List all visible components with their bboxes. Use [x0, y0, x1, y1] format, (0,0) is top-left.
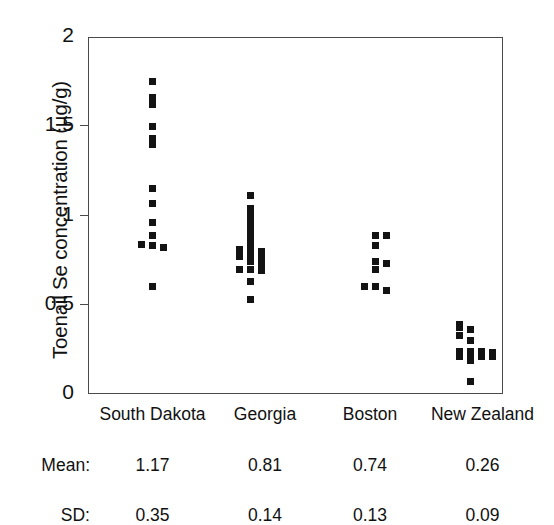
data-point — [247, 192, 254, 199]
data-point — [149, 283, 156, 290]
data-point — [149, 94, 156, 101]
data-point — [149, 101, 156, 108]
data-point — [247, 212, 254, 219]
group-label-boston: Boston — [320, 404, 420, 425]
data-point — [489, 349, 496, 356]
group-label-georgia: Georgia — [215, 404, 315, 425]
mean-boston: 0.74 — [320, 455, 420, 476]
data-point — [456, 332, 463, 339]
sd-row-label: SD: — [10, 505, 90, 525]
data-point — [372, 266, 379, 273]
data-point — [149, 123, 156, 130]
data-point — [247, 278, 254, 285]
mean-row: Mean: 1.17 0.81 0.74 0.26 — [0, 455, 554, 480]
data-point — [236, 266, 243, 273]
data-point — [478, 353, 485, 360]
group-label-row: South Dakota Georgia Boston New Zealand — [0, 404, 554, 429]
data-point — [149, 185, 156, 192]
y-tick-label-0.5: 0.5 — [8, 291, 74, 315]
y-tick-label-2: 2 — [8, 23, 74, 47]
data-point — [138, 241, 145, 248]
data-point — [247, 296, 254, 303]
data-point — [467, 337, 474, 344]
data-point — [372, 283, 379, 290]
data-point — [247, 266, 254, 273]
data-point — [247, 205, 254, 212]
group-label-new-zealand: New Zealand — [415, 404, 550, 425]
data-point — [247, 251, 254, 258]
data-point — [160, 244, 167, 251]
sd-georgia: 0.14 — [215, 505, 315, 525]
sd-south-dakota: 0.35 — [90, 505, 215, 525]
sd-new-zealand: 0.09 — [415, 505, 550, 525]
sd-boston: 0.13 — [320, 505, 420, 525]
summary-table: South Dakota Georgia Boston New Zealand … — [0, 404, 554, 479]
data-point — [149, 219, 156, 226]
mean-row-label: Mean: — [10, 455, 90, 476]
data-point — [383, 260, 390, 267]
y-tick-1 — [80, 215, 89, 216]
mean-georgia: 0.81 — [215, 455, 315, 476]
data-point — [467, 378, 474, 385]
data-point — [372, 258, 379, 265]
data-point — [149, 200, 156, 207]
data-point — [361, 283, 368, 290]
y-tick-1.5 — [80, 125, 89, 126]
data-point — [236, 246, 243, 253]
data-point — [149, 141, 156, 148]
data-point — [258, 248, 265, 255]
y-tick-label-1: 1 — [8, 202, 74, 226]
data-point — [372, 232, 379, 239]
data-point — [456, 324, 463, 331]
data-point — [236, 253, 243, 260]
mean-new-zealand: 0.26 — [415, 455, 550, 476]
data-point — [258, 267, 265, 274]
data-point — [149, 242, 156, 249]
sd-row: SD: 0.35 0.14 0.13 0.09 — [0, 505, 554, 525]
data-point — [258, 260, 265, 267]
data-point — [383, 287, 390, 294]
data-point — [467, 357, 474, 364]
data-point — [383, 232, 390, 239]
data-point — [467, 326, 474, 333]
y-tick-label-0: 0 — [8, 380, 74, 404]
data-point — [149, 232, 156, 239]
mean-south-dakota: 1.17 — [90, 455, 215, 476]
y-tick-0.5 — [80, 304, 89, 305]
group-label-south-dakota: South Dakota — [90, 404, 215, 425]
data-point — [247, 258, 254, 265]
data-point — [149, 78, 156, 85]
data-point — [372, 242, 379, 249]
plot-area — [88, 37, 503, 394]
data-point — [456, 353, 463, 360]
y-tick-label-1.5: 1.5 — [8, 112, 74, 136]
